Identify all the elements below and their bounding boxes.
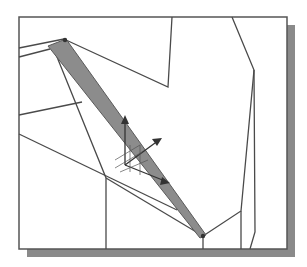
beam-vertex-top[interactable] [63,38,67,42]
beam-vertex-bottom[interactable] [201,234,205,238]
cad-viewport[interactable] [0,0,307,267]
